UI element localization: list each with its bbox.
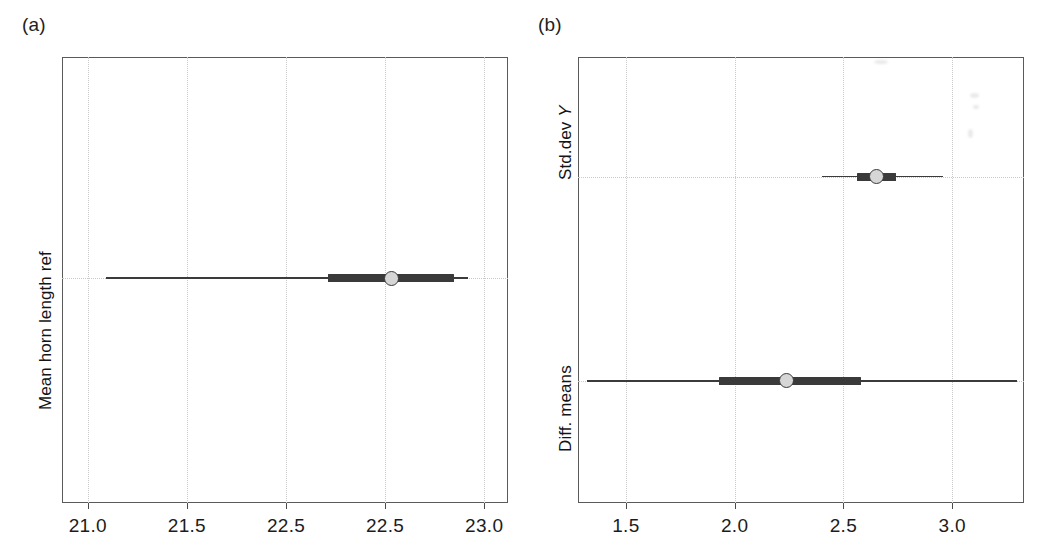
- axis-tick: [735, 503, 736, 509]
- gridline: [626, 57, 628, 503]
- axis-tick: [385, 503, 386, 509]
- panel-b-ylabel-diffmeans: Diff. means: [556, 365, 576, 452]
- axis-tick: [626, 503, 627, 509]
- axis-tick-label: 2.5: [830, 515, 857, 537]
- axis-tick-label: 21.5: [168, 515, 206, 537]
- row-gridline: [578, 177, 1024, 179]
- panel-b-ylabel-stddev: Std.dev Y: [556, 105, 576, 180]
- axis-tick-label: 22.5: [366, 515, 404, 537]
- point-estimate-marker: [869, 169, 884, 184]
- axis-tick-label: 21.0: [69, 515, 107, 537]
- scan-smudge: [968, 129, 973, 138]
- row-label-text: Diff. means: [556, 365, 575, 452]
- row-label-text: Std.dev: [556, 117, 575, 180]
- scan-smudge: [973, 105, 979, 109]
- axis-tick-label: 22.5: [267, 515, 305, 537]
- scan-smudge: [874, 60, 888, 64]
- panel-a-ylabel: Mean horn length ref: [36, 251, 56, 410]
- figure-canvas: (a) 21.021.522.522.523.0 Mean horn lengt…: [0, 0, 1061, 556]
- axis-tick: [952, 503, 953, 509]
- panel-a-ylabel-text: Mean horn length ref: [36, 251, 55, 410]
- axis-tick-label: 2.0: [721, 515, 748, 537]
- panel-a-plot: [62, 57, 508, 503]
- panel-b-frame: [578, 57, 1024, 503]
- axis-tick-label: 23.0: [465, 515, 503, 537]
- axis-tick: [843, 503, 844, 509]
- axis-tick: [286, 503, 287, 509]
- panel-b-label: (b): [538, 14, 562, 36]
- axis-tick: [484, 503, 485, 509]
- row-label-variable: Y: [556, 105, 575, 116]
- axis-tick: [88, 503, 89, 509]
- point-estimate-marker: [384, 271, 399, 286]
- gridline: [952, 57, 954, 503]
- axis-tick-label: 1.5: [612, 515, 639, 537]
- panel-b-plot: [578, 57, 1024, 503]
- panel-a-label: (a): [22, 14, 46, 36]
- axis-tick: [187, 503, 188, 509]
- gridline: [843, 57, 845, 503]
- gridline: [735, 57, 737, 503]
- scan-smudge: [970, 93, 979, 98]
- axis-tick-label: 3.0: [939, 515, 966, 537]
